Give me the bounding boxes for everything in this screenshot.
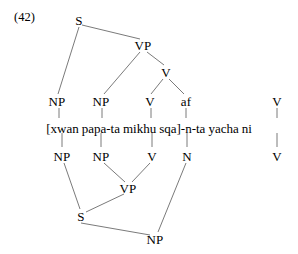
tree-edge-lower xyxy=(64,163,80,209)
tree-node-np: NP xyxy=(92,95,109,108)
tree-node-v: V xyxy=(147,150,157,163)
tree-edge-upper xyxy=(104,52,140,94)
tree-edge-upper xyxy=(169,79,184,94)
tree-edge-upper xyxy=(147,52,164,65)
tree-node-s: S xyxy=(75,14,82,27)
tree-node-af: af xyxy=(181,95,192,108)
tree-node-n: N xyxy=(182,150,192,163)
tree-node-v: V xyxy=(272,150,282,163)
tree-node-v: V xyxy=(272,95,282,108)
tree-edge-upper xyxy=(82,25,140,39)
tree-edge-lower xyxy=(132,163,150,182)
gloss-word: ni xyxy=(242,121,252,136)
tree-node-np: NP xyxy=(48,95,65,108)
tree-node-v: V xyxy=(145,95,155,108)
gloss-word: sqa]-n-ta xyxy=(159,121,205,136)
tree-edge-lower xyxy=(104,163,125,182)
tree-node-np: NP xyxy=(92,150,109,163)
tree-edge-lower xyxy=(86,194,124,212)
gloss-word-line: [xwanpapa-tamikhusqa]-n-tayachani xyxy=(0,122,298,135)
tree-node-np: NP xyxy=(53,150,70,163)
tree-edge-upper xyxy=(151,79,163,94)
tree-edge-upper xyxy=(58,27,79,94)
tree-node-v: V xyxy=(161,66,171,79)
gloss-word: papa-ta xyxy=(82,121,120,136)
syntax-tree-figure: (42) [xwanpapa-tamikhusqa]-n-tayachani S… xyxy=(0,0,298,254)
tree-node-s: S xyxy=(77,210,84,223)
tree-node-vp: VP xyxy=(134,39,151,52)
tree-edge-lower xyxy=(158,163,186,232)
tree-node-np: NP xyxy=(146,233,163,246)
tree-node-vp: VP xyxy=(119,182,136,195)
gloss-word: [xwan xyxy=(46,121,79,136)
gloss-word: mikhu xyxy=(123,121,156,136)
tree-edge-lower xyxy=(81,223,150,235)
gloss-word: yacha xyxy=(208,121,238,136)
